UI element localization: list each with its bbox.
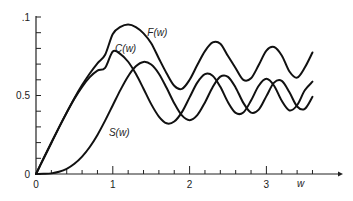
x-axis-arrow-icon [338,172,343,177]
x-tick-label: 0 [33,179,39,190]
fresnel-chart: 00.5.1 0123 F(w)C(w)S(w)w [0,0,353,201]
curve-f [36,25,312,174]
y-tick-label: .1 [22,12,31,23]
annotation-label: w [297,178,305,189]
curve-c [36,51,312,174]
x-tick-label: 3 [264,179,270,190]
x-tick-label: 1 [110,179,116,190]
x-tick-label: 2 [187,179,193,190]
annotation-label: C(w) [115,43,136,54]
annotations: F(w)C(w)S(w)w [109,27,305,189]
annotation-label: F(w) [147,27,167,38]
y-tick-label: 0 [24,169,30,180]
annotation-label: S(w) [109,127,130,138]
curve-s [36,62,312,174]
curves [36,25,312,174]
y-tick-label: 0.5 [16,90,30,101]
x-ticks: 0123 [33,166,312,190]
y-ticks: 00.5.1 [16,12,41,180]
